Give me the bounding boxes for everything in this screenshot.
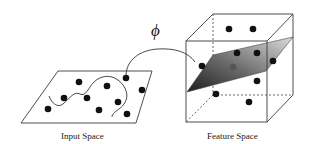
input-space-caption: Input Space xyxy=(61,131,104,141)
feature-space xyxy=(186,14,293,122)
feature-space-caption: Feature Space xyxy=(207,131,258,141)
phi-mapping-label: ϕ xyxy=(151,21,160,41)
input-space xyxy=(21,71,152,123)
